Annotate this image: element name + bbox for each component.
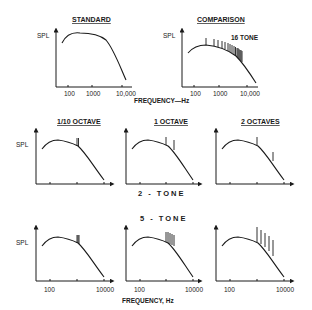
- annotation-16-tone: 16 TONE: [231, 34, 259, 41]
- panel-title: STANDARD: [72, 16, 111, 23]
- figure: STANDARD SPL 100 1000 10,000 COMPARISON …: [0, 0, 312, 310]
- panel-title: 1 OCTAVE: [154, 118, 188, 125]
- y-axis-label: SPL: [16, 239, 29, 246]
- x-axis-label: FREQUENCY—Hz: [134, 97, 190, 105]
- row-label-2-tone: 2 - TONE: [138, 189, 186, 198]
- tick-label: 100: [190, 90, 201, 97]
- y-axis-label: SPL: [16, 141, 29, 148]
- panel-1-octave: 1 OCTAVE: [126, 118, 200, 184]
- response-curve: [132, 237, 193, 277]
- response-curve: [42, 140, 104, 180]
- tick-label: 10,000: [116, 90, 136, 97]
- tick-label: 10000: [185, 286, 203, 293]
- panel-5-tone-medium: 100 10000: [126, 227, 203, 293]
- response-curve: [42, 237, 104, 277]
- x-axis-label: FREQUENCY, Hz: [122, 297, 174, 305]
- tick-label: 10,000: [240, 90, 260, 97]
- response-curve: [62, 33, 126, 80]
- tick-label: 100: [64, 90, 75, 97]
- panel-comparison: COMPARISON SPL 100 1000 10,000 16 TONE: [163, 16, 260, 97]
- tone-lines: [206, 38, 242, 62]
- panel-5-tone-narrow: 100 10000: [36, 227, 114, 293]
- tick-label: 10000: [96, 286, 114, 293]
- panel-title: 1/10 OCTAVE: [57, 118, 101, 125]
- response-curve: [222, 140, 284, 180]
- tick-label: 1000: [86, 90, 101, 97]
- panel-standard: STANDARD SPL 100 1000 10,000: [37, 16, 136, 97]
- panel-5-tone-wide: 100 10000: [216, 227, 294, 293]
- response-curve: [188, 45, 256, 83]
- panel-title: 2 OCTAVES: [241, 118, 280, 125]
- tick-label: 100: [224, 286, 235, 293]
- panel-1-10-octave: 1/10 OCTAVE: [36, 118, 112, 184]
- tick-label: 100: [44, 286, 55, 293]
- tick-label: 100: [134, 286, 145, 293]
- response-curve: [222, 237, 284, 277]
- tick-label: 1000: [213, 90, 228, 97]
- panel-2-octaves: 2 OCTAVES: [216, 118, 292, 184]
- tick-label: 10000: [276, 286, 294, 293]
- response-curve: [132, 140, 193, 180]
- panel-title: COMPARISON: [197, 16, 245, 23]
- row-label-5-tone: 5 - TONE: [140, 214, 188, 223]
- y-axis-label: SPL: [37, 32, 50, 39]
- y-axis-label: SPL: [163, 32, 176, 39]
